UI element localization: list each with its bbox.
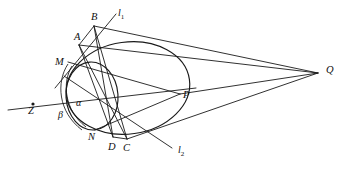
geometry-figure: B A M Z α β N D C P Q l1 l2	[0, 0, 343, 176]
ray-P-Q	[180, 73, 318, 94]
label-A: A	[74, 32, 80, 43]
chord-D-C	[113, 137, 127, 139]
label-M: M	[55, 57, 64, 68]
label-N: N	[88, 132, 95, 143]
label-D: D	[108, 142, 116, 153]
label-C: C	[123, 143, 130, 154]
label-P: P	[183, 90, 189, 101]
label-line-l1: l1	[118, 8, 124, 21]
label-Z: Z	[28, 106, 34, 117]
label-line-l2-subscript: 2	[181, 150, 185, 158]
label-B: B	[91, 12, 97, 23]
ray-B-Q	[94, 26, 318, 73]
geometry-canvas	[0, 0, 343, 176]
ray-C-Q	[127, 73, 318, 139]
chord-M-P	[68, 62, 180, 94]
line-l1	[55, 14, 116, 88]
label-line-l1-subscript: 1	[121, 13, 125, 21]
ray-A-Q	[79, 45, 318, 73]
label-line-l2: l2	[178, 145, 184, 158]
label-alpha: α	[76, 98, 81, 108]
label-beta: β	[58, 110, 63, 120]
label-Q: Q	[326, 65, 334, 76]
chord-A-B	[79, 26, 94, 45]
